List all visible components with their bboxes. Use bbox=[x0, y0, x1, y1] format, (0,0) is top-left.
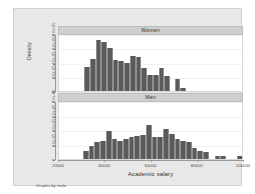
graph-region: Density Women Men 02.0e-054.0e-056.0e-05… bbox=[13, 8, 242, 186]
y-tick-label: 8.0e-05 bbox=[51, 22, 56, 36]
plot-area-men bbox=[58, 102, 243, 160]
y-tick-label: 4.0e-05 bbox=[51, 118, 56, 132]
graph-note: Graphs by male bbox=[36, 183, 66, 188]
histogram-bar bbox=[180, 88, 186, 91]
x-tick-label: 100000 bbox=[229, 163, 255, 168]
histogram-bar bbox=[203, 152, 209, 159]
panel-women: Women bbox=[58, 26, 243, 92]
histogram-bar bbox=[237, 156, 243, 159]
y-tick-label: 6.0e-05 bbox=[51, 104, 56, 118]
histogram-bar bbox=[220, 156, 226, 159]
x-tick-mark bbox=[151, 160, 152, 162]
x-tick-mark bbox=[243, 160, 244, 162]
panel-men-header: Men bbox=[58, 93, 243, 102]
panel-men-title: Men bbox=[59, 94, 242, 101]
plot-area-women bbox=[58, 35, 243, 92]
y-tick-label: 2.0e-05 bbox=[51, 133, 56, 147]
panel-women-header: Women bbox=[58, 26, 243, 35]
x-tick-label: 80000 bbox=[183, 163, 211, 168]
bars-women bbox=[59, 35, 242, 91]
y-tick-label: 4.0e-05 bbox=[51, 51, 56, 65]
x-tick-label: 40000 bbox=[90, 163, 118, 168]
x-tick-mark bbox=[58, 160, 59, 162]
x-tick-mark bbox=[197, 160, 198, 162]
panel-men: Men bbox=[58, 93, 243, 160]
y-axis-title: Density bbox=[26, 21, 36, 81]
y-tick-label: 8.0e-05 bbox=[51, 89, 56, 103]
x-axis-title: Academic salary bbox=[58, 171, 243, 177]
y-tick-label: 6.0e-05 bbox=[51, 37, 56, 51]
y-tick-label: 2.0e-05 bbox=[51, 65, 56, 79]
histogram-bar bbox=[164, 76, 170, 91]
x-tick-label: 60000 bbox=[137, 163, 165, 168]
x-tick-mark bbox=[104, 160, 105, 162]
panel-women-title: Women bbox=[59, 27, 242, 34]
bars-men bbox=[59, 102, 242, 159]
x-tick-label: 20000 bbox=[44, 163, 72, 168]
y-tick-label: 0 bbox=[51, 159, 56, 161]
